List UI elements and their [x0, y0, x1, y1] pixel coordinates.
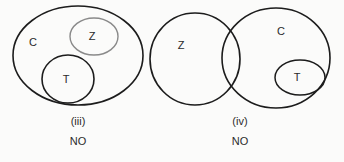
- venn-diagram-canvas: C Z T (iii) NO Z C T (iv) NO: [0, 0, 344, 162]
- set-outline-c-iii: [13, 6, 143, 105]
- set-label-z-iii: Z: [89, 30, 96, 42]
- set-label-t-iii: T: [63, 73, 70, 85]
- set-outline-c-iv: [222, 8, 330, 108]
- diagram-iii-group: C Z T (iii) NO: [13, 6, 143, 147]
- set-label-c-iii: C: [29, 36, 37, 48]
- caption-iv: (iv): [232, 115, 247, 127]
- set-label-z-iv: Z: [178, 39, 185, 51]
- diagram-iv-group: Z C T (iv) NO: [150, 8, 330, 147]
- answer-iii: NO: [70, 135, 87, 147]
- set-outline-z-iv: [150, 13, 240, 105]
- set-label-c-iv: C: [277, 25, 285, 37]
- answer-iv: NO: [232, 135, 249, 147]
- caption-iii: (iii): [71, 115, 86, 127]
- venn-diagram-figure: C Z T (iii) NO Z C T (iv) NO: [0, 0, 344, 162]
- set-label-t-iv: T: [294, 71, 301, 83]
